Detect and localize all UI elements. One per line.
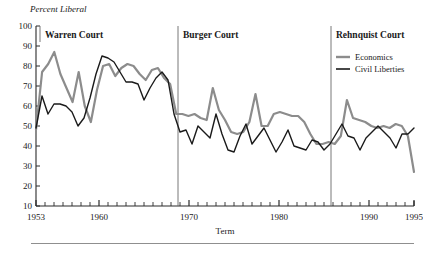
y-axis-tick-label: 90 [23,41,33,51]
y-axis-tick-label: 50 [23,121,33,131]
y-axis-tick-label: 40 [23,141,33,151]
chart-figure: Percent Liberal Warren CourtBurger Court… [0,0,423,254]
y-axis-tick-label: 60 [23,101,33,111]
y-axis-tick-label: 30 [23,161,33,171]
x-axis-tick-label: 1970 [180,212,199,222]
y-axis-tick-label: 100 [19,21,33,31]
line-chart-canvas: Warren CourtBurger CourtRehnquist Court … [0,0,423,254]
footer-divider [31,243,414,244]
y-axis-tick-label: 20 [23,181,33,191]
x-axis-tick-label: 1990 [360,212,379,222]
x-axis-tick-label: 1995 [405,212,423,222]
legend-label-economics: Economics [355,52,393,62]
x-axis-tick-label: 1980 [270,212,289,222]
x-axis-tick-label: 1960 [90,212,109,222]
y-axis-tick-label: 70 [23,81,33,91]
y-axis-tick-label: 10 [23,201,33,211]
legend-label-civil-liberties: Civil Liberties [355,64,404,74]
court-era-label: Warren Court [45,30,104,40]
court-era-label: Rehnquist Court [336,30,405,40]
chart-legend: EconomicsCivil Liberties [336,52,404,74]
court-era-label: Burger Court [183,30,239,40]
x-axis-tick-label: 1953 [27,212,46,222]
y-axis-tick-label: 80 [23,61,33,71]
x-axis-title: Term [216,226,235,236]
